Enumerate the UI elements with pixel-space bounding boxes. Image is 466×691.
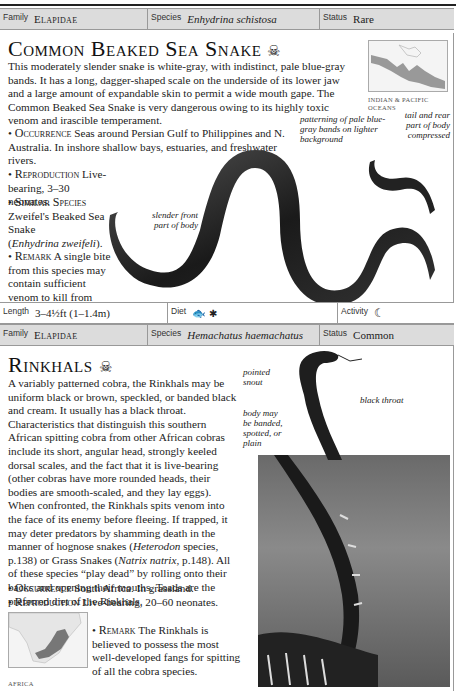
entry1-title: Common Beaked Sea Snake ☠ [8, 36, 281, 62]
range-map-label: AFRICA [8, 680, 34, 688]
reproduction-label: Reproduction [15, 595, 79, 609]
status-label: Status [323, 12, 347, 22]
family-value: Elapidae [34, 329, 77, 341]
annotation-patterning: patterning of pale blue-gray bands on li… [300, 114, 390, 144]
range-map-africa [8, 612, 88, 668]
skull-crossbones-icon: ☠ [267, 43, 281, 59]
annotation-body: body may be banded, spotted, or plain [243, 408, 288, 448]
activity-label: Activity [341, 306, 368, 316]
activity-cell: Activity ☾ [338, 303, 454, 323]
length-cell: Length 3–4½ft (1–1.4m) [0, 303, 168, 323]
length-value: 3–4½ft (1–1.4m) [35, 307, 110, 319]
entry2-info-bar: Family Elapidae Species Hemachatus haema… [0, 324, 454, 346]
remark-label: Remark [99, 623, 136, 637]
diet-label: Diet [171, 306, 186, 316]
heterodon-latin: Heterodon [133, 540, 180, 552]
status-cell: Status Common [320, 325, 454, 345]
annotation-tail: tail and rear part of body compressed [390, 110, 450, 140]
occurrence-text: South Africa. In grassland. [74, 582, 194, 594]
diet-cell: Diet 🐟 ✱ [168, 303, 338, 323]
occurrence-label: Occurrence [15, 581, 72, 595]
status-cell: Status Rare [320, 9, 454, 29]
similar-species-latin: Enhydrina zweifeli [12, 237, 96, 249]
rinkhals-photo [258, 455, 450, 687]
family-cell: Family Elapidae [0, 9, 148, 29]
entry1-info-bar: Family Elapidae Species Enhydrina schist… [0, 8, 454, 30]
species-cell: Species Hemachatus haemachatus [148, 325, 320, 345]
natrix-latin: Natrix natrix [118, 554, 176, 566]
page-top-rule [0, 4, 456, 6]
species-value: Hemachatus haemachatus [187, 329, 303, 341]
entry2-title: Rinkhals ☠ [8, 352, 112, 378]
entry1-title-text: Common Beaked Sea Snake [8, 36, 261, 61]
moon-icon: ☾ [374, 306, 385, 321]
fish-icon: 🐟 [192, 307, 206, 320]
insect-icon: ✱ [209, 308, 217, 319]
family-label: Family [3, 12, 28, 22]
entry2-reproduction: • Reproduction Live-bearing, 20–60 neona… [8, 596, 248, 610]
species-value: Enhydrina schistosa [187, 13, 277, 25]
species-label: Species [151, 12, 181, 22]
remark-label: Remark [15, 249, 52, 263]
family-label: Family [3, 328, 28, 338]
entry2-remark: • Remark The Rinkhals is believed to pos… [92, 624, 242, 678]
status-label: Status [323, 328, 347, 338]
family-cell: Family Elapidae [0, 325, 148, 345]
annotation-snout: pointed snout [243, 367, 283, 387]
length-label: Length [3, 306, 29, 316]
skull-crossbones-icon: ☠ [99, 359, 113, 375]
occurrence-label: Occurrence [15, 126, 72, 140]
annotation-throat: black throat [360, 395, 430, 405]
range-map-indo-pacific [368, 40, 448, 92]
family-value: Elapidae [34, 13, 77, 25]
species-cell: Species Enhydrina schistosa [148, 9, 320, 29]
entry2-title-text: Rinkhals [8, 352, 93, 377]
similar-species-text: Zweifel's Beaked Sea Snake [8, 210, 104, 236]
status-value: Common [353, 329, 394, 341]
page-right-rule [453, 33, 454, 691]
status-value: Rare [353, 13, 374, 25]
entry2-description: A variably patterned cobra, the Rinkhals… [8, 377, 240, 608]
reproduction-label: Reproduction [15, 167, 79, 181]
entry2-occurrence: • Occurrence South Africa. In grassland. [8, 582, 248, 596]
similar-species-label: Similar Species [15, 195, 86, 209]
entry1-stats-bar: Length 3–4½ft (1–1.4m) Diet 🐟 ✱ Activity… [0, 302, 454, 324]
species-label: Species [151, 328, 181, 338]
description-part: A variably patterned cobra, the Rinkhals… [8, 377, 236, 552]
reproduction-text: Live-bearing, 20–60 neonates. [82, 596, 218, 608]
annotation-front: slender front part of body [148, 210, 198, 230]
